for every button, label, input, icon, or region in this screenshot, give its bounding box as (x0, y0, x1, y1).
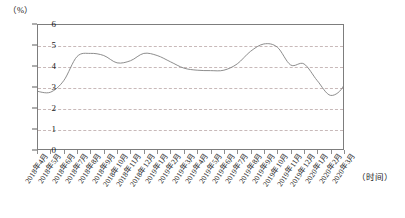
series-path (37, 44, 357, 96)
line-chart: （%） 6543210 2018年4月2018年5月2018年6月2018年7月… (0, 0, 405, 218)
data-series-line (0, 0, 405, 218)
